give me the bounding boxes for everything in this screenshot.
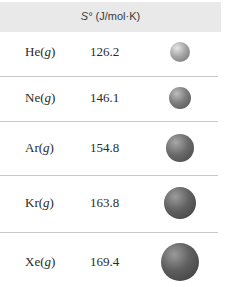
atom-sphere-icon <box>164 187 196 219</box>
row-divider <box>0 121 218 122</box>
entropy-value: 163.8 <box>90 195 119 211</box>
entropy-value: 154.8 <box>90 140 119 156</box>
element-name: Ar(g) <box>25 140 54 156</box>
element-name: Ne(g) <box>25 90 55 106</box>
table-header: S° (J/mol·K) <box>0 2 221 32</box>
row-divider <box>0 76 218 77</box>
atom-sphere-icon <box>169 87 191 109</box>
atom-sphere-icon <box>170 42 190 62</box>
row-divider <box>0 175 218 176</box>
element-name: He(g) <box>25 44 55 60</box>
header-label: S° (J/mol·K) <box>0 10 221 22</box>
atom-sphere-icon <box>161 243 199 281</box>
row-divider <box>0 232 218 233</box>
entropy-units: (J/mol·K) <box>93 10 141 22</box>
element-name: Xe(g) <box>25 254 55 270</box>
atom-sphere-icon <box>166 134 194 162</box>
entropy-value: 126.2 <box>90 44 119 60</box>
element-name: Kr(g) <box>25 195 54 211</box>
entropy-value: 169.4 <box>90 254 119 270</box>
entropy-value: 146.1 <box>90 90 119 106</box>
entropy-symbol: S° <box>81 10 93 22</box>
